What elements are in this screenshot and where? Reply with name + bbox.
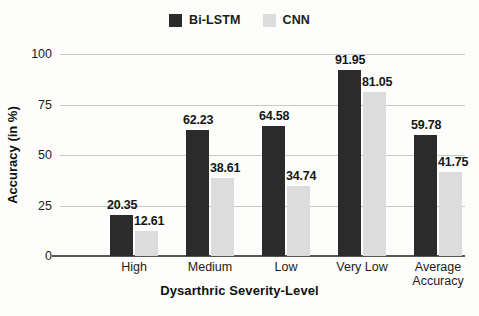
bar-bilstm xyxy=(338,70,361,256)
bar-value-label: 38.61 xyxy=(210,161,240,175)
bar-bilstm xyxy=(110,215,133,256)
x-axis-category-label: High xyxy=(121,260,147,274)
x-axis-category-label: Medium xyxy=(188,260,232,274)
legend-label-cnn: CNN xyxy=(283,13,310,27)
bar-group: 59.7841.75 xyxy=(414,54,462,256)
bar-value-label: 62.23 xyxy=(183,113,213,127)
y-axis-tick-label: 25 xyxy=(38,199,52,213)
y-axis-tick-label: 50 xyxy=(38,148,52,162)
bar-value-label: 91.95 xyxy=(335,53,365,67)
bar-bilstm xyxy=(186,130,209,256)
legend-item-bilstm: Bi-LSTM xyxy=(169,13,240,27)
y-axis-tick-label: 100 xyxy=(31,47,52,61)
bar-cnn xyxy=(211,178,234,256)
bar-value-label: 81.05 xyxy=(362,75,392,89)
legend-label-bilstm: Bi-LSTM xyxy=(189,13,240,27)
bar-cnn xyxy=(287,186,310,256)
bar-group: 20.3512.61 xyxy=(110,54,158,256)
bar-groups: 20.3512.6162.2338.6164.5834.7491.9581.05… xyxy=(60,54,465,256)
bar-bilstm xyxy=(414,135,437,256)
bar-cnn xyxy=(439,172,462,256)
x-axis-title: Dysarthric Severity-Level xyxy=(0,283,479,298)
bar-bilstm xyxy=(262,126,285,256)
y-axis-tick-label: 75 xyxy=(38,98,52,112)
legend-swatch-bilstm xyxy=(169,14,182,27)
bar-value-label: 41.75 xyxy=(438,155,468,169)
bar-value-label: 20.35 xyxy=(107,198,137,212)
legend-item-cnn: CNN xyxy=(263,13,310,27)
bar-value-label: 12.61 xyxy=(134,214,164,228)
chart-legend: Bi-LSTM CNN xyxy=(0,13,479,27)
bar-cnn xyxy=(135,231,158,256)
x-axis-category-label: Low xyxy=(275,260,298,274)
legend-swatch-cnn xyxy=(263,14,276,27)
bar-group: 64.5834.74 xyxy=(262,54,310,256)
bar-group: 91.9581.05 xyxy=(338,54,386,256)
bar-cnn xyxy=(363,92,386,256)
y-axis-tick-label: 0 xyxy=(45,249,52,263)
bar-value-label: 64.58 xyxy=(259,109,289,123)
bar-value-label: 59.78 xyxy=(411,118,441,132)
bar-chart: Bi-LSTM CNN 0255075100 20.3512.6162.2338… xyxy=(0,0,479,316)
x-axis-category-label: Very Low xyxy=(336,260,387,274)
bar-value-label: 34.74 xyxy=(286,169,316,183)
bar-group: 62.2338.61 xyxy=(186,54,234,256)
y-axis-title: Accuracy (in %) xyxy=(5,106,20,204)
plot-area: 0255075100 20.3512.6162.2338.6164.5834.7… xyxy=(60,54,465,256)
